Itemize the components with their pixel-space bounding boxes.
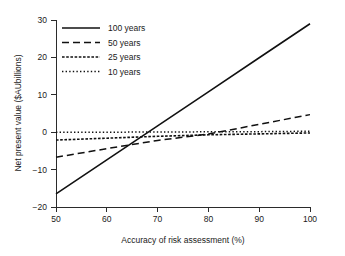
y-tick-label: 30	[38, 15, 48, 25]
x-tick-label: 90	[254, 214, 264, 224]
legend-label-100-years: 100 years	[108, 23, 145, 33]
legend-label-25-years: 25 years	[108, 52, 141, 62]
y-tick-label: −20	[33, 202, 48, 212]
y-tick-label: 10	[38, 90, 48, 100]
x-tick-label: 70	[153, 214, 163, 224]
x-axis-title: Accuracy of risk assessment (%)	[121, 235, 244, 245]
y-tick-label: −10	[33, 165, 48, 175]
legend-label-50-years: 50 years	[108, 38, 141, 48]
net-present-value-line-chart: −20−100102030 5060708090100 100 years50 …	[0, 0, 345, 256]
x-tick-label: 50	[51, 214, 61, 224]
y-axis-title: Net present value ($AUbillions)	[13, 54, 23, 171]
legend-label-10-years: 10 years	[108, 67, 141, 77]
y-tick-label: 20	[38, 52, 48, 62]
x-tick-label: 100	[303, 214, 317, 224]
chart-figure: −20−100102030 5060708090100 100 years50 …	[0, 0, 345, 256]
y-tick-label: 0	[42, 127, 47, 137]
x-tick-label: 80	[204, 214, 214, 224]
x-tick-label: 60	[102, 214, 112, 224]
